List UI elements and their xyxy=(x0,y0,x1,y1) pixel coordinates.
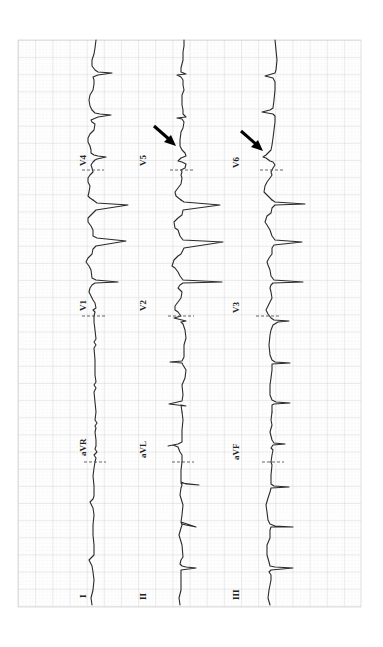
label-lead-V4: V4 xyxy=(78,155,88,166)
label-lead-V2: V2 xyxy=(138,300,148,311)
label-lead-V6: V6 xyxy=(231,157,241,168)
label-lead-aVR: aVR xyxy=(78,438,88,456)
label-lead-II: II xyxy=(138,592,148,600)
label-lead-V5: V5 xyxy=(138,155,148,166)
ecg-figure: I aVR V1 V4 II aVL V2 V5 III aVF V3 V6 xyxy=(0,0,383,647)
ecg-grid-paper xyxy=(18,40,361,607)
label-lead-I: I xyxy=(78,594,88,598)
label-lead-V1: V1 xyxy=(78,300,88,311)
label-lead-III: III xyxy=(231,589,241,600)
label-lead-aVL: aVL xyxy=(138,441,148,458)
label-lead-aVF: aVF xyxy=(231,443,241,460)
label-lead-V3: V3 xyxy=(231,302,241,313)
